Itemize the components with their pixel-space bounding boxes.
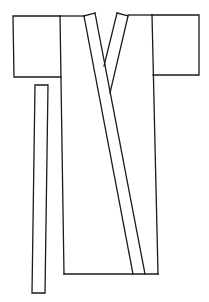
sash-belt	[32, 85, 48, 293]
collar-band	[84, 13, 145, 274]
kimono-drawing	[0, 0, 209, 302]
left-sleeve	[13, 16, 61, 77]
right-sleeve	[152, 15, 199, 75]
kimono-diagram	[0, 0, 209, 302]
